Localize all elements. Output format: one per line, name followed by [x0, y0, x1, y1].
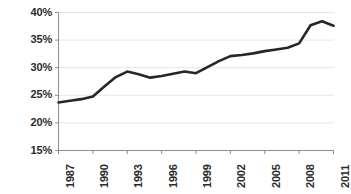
y-axis-label: 20%	[12, 116, 52, 128]
x-axis-label: 2005	[270, 164, 282, 188]
x-axis-label: 2008	[304, 164, 316, 188]
x-axis-label: 1990	[98, 164, 110, 188]
x-axis-label: 1996	[167, 164, 179, 188]
y-axis-label: 25%	[12, 88, 52, 100]
y-axis-label: 15%	[12, 144, 52, 156]
y-axis-label: 35%	[12, 33, 52, 45]
x-axis-label: 1993	[132, 164, 144, 188]
x-axis-label: 2002	[235, 164, 247, 188]
x-axis-label: 1999	[201, 164, 213, 188]
data-line-share	[59, 21, 334, 102]
y-axis-label: 30%	[12, 61, 52, 73]
x-axis-label: 1987	[64, 164, 76, 188]
x-axis-label: 2011	[339, 164, 351, 187]
y-axis-label: 40%	[12, 6, 52, 18]
